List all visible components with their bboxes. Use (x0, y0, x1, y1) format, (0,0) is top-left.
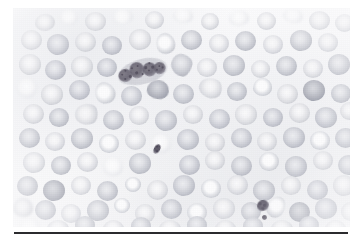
erythrocyte (276, 56, 297, 76)
erythrocyte (257, 12, 276, 30)
erythrocyte (205, 151, 225, 170)
erythrocyte (41, 84, 63, 105)
erythrocyte (235, 104, 257, 125)
erythrocyte (155, 110, 177, 131)
erythrocyte (231, 156, 252, 176)
erythrocyte (13, 198, 33, 217)
erythrocyte (75, 32, 96, 52)
erythrocyte (187, 216, 207, 227)
page-root (0, 0, 361, 241)
erythrocyte (281, 176, 301, 195)
erythrocyte (201, 13, 219, 30)
platelet-speck (156, 145, 159, 148)
erythrocyte (85, 12, 106, 31)
erythrocyte (17, 78, 37, 98)
erythrocyte (47, 34, 69, 55)
erythrocyte (309, 11, 330, 30)
erythrocyte (231, 128, 252, 148)
erythrocyte (257, 132, 277, 151)
chromatin-granule (128, 75, 131, 78)
erythrocyte (209, 34, 229, 53)
erythrocyte (97, 58, 117, 77)
erythrocyte (17, 176, 38, 196)
erythrocyte (45, 132, 65, 151)
erythrocyte (19, 128, 40, 148)
erythrocyte (289, 103, 310, 123)
erythrocyte (179, 155, 200, 175)
erythrocyte (251, 60, 270, 78)
erythrocyte (333, 175, 350, 196)
erythrocyte (75, 216, 95, 227)
erythrocyte (43, 180, 65, 201)
erythrocyte (335, 128, 350, 148)
erythrocyte (129, 153, 151, 174)
erythrocyte (173, 175, 195, 196)
erythrocyte (23, 104, 44, 124)
erythrocyte (145, 11, 164, 29)
erythrocyte (205, 133, 225, 152)
erythrocyte (303, 59, 323, 78)
erythrocyte (263, 108, 283, 127)
erythrocyte (23, 152, 45, 173)
erythrocyte (129, 106, 149, 125)
erythrocyte (223, 55, 245, 76)
erythrocyte (235, 31, 256, 51)
erythrocyte (97, 181, 118, 201)
platelet-speck (156, 150, 159, 153)
erythrocyte (103, 157, 123, 176)
platelet-speck (263, 216, 265, 218)
erythrocyte (307, 180, 328, 200)
chromatin-granule (135, 71, 138, 74)
chromatin-granule (161, 66, 163, 68)
erythrocyte (331, 84, 350, 103)
micrograph-figure (13, 8, 350, 227)
erythrocyte (328, 54, 350, 75)
platelet-speck (261, 207, 264, 210)
erythrocyte (49, 108, 69, 127)
erythrocyte (227, 82, 247, 101)
erythrocyte (161, 199, 182, 219)
erythrocyte (213, 198, 235, 219)
erythrocyte (313, 151, 333, 170)
erythrocyte (102, 36, 122, 55)
erythrocyte (45, 60, 66, 80)
erythrocyte (290, 30, 312, 51)
erythrocyte (19, 54, 41, 75)
erythrocyte (147, 180, 168, 200)
erythrocyte (114, 198, 130, 213)
erythrocyte (71, 56, 93, 77)
erythrocyte (303, 80, 325, 101)
erythrocyte (197, 58, 217, 77)
erythrocyte (209, 109, 230, 129)
erythrocyte (177, 129, 199, 150)
erythrocyte (263, 35, 283, 54)
erythrocyte (99, 134, 119, 153)
erythrocyte (227, 175, 248, 195)
erythrocyte (318, 33, 338, 52)
erythrocyte (129, 29, 151, 50)
erythrocyte (71, 128, 93, 149)
erythrocyte (51, 156, 71, 175)
erythrocyte (71, 176, 91, 195)
erythrocyte (21, 30, 42, 50)
erythrocyte (201, 179, 221, 198)
erythrocyte (315, 107, 337, 128)
caption-horizontal-rule (14, 232, 348, 234)
erythrocyte (183, 105, 203, 124)
erythrocyte (335, 14, 350, 32)
erythrocyte (77, 152, 98, 172)
erythrocyte (173, 84, 194, 104)
erythrocyte (253, 78, 272, 96)
erythrocyte (277, 84, 298, 104)
erythrocyte (299, 216, 319, 227)
erythrocyte (283, 127, 305, 148)
erythrocyte (181, 30, 202, 50)
erythrocyte (103, 110, 124, 130)
chromatin-granule (148, 62, 150, 64)
erythrocyte (69, 80, 90, 100)
erythrocyte (125, 130, 146, 150)
erythrocyte (35, 200, 56, 220)
platelet-speck (259, 202, 262, 205)
erythrocyte (121, 86, 142, 106)
erythrocyte (310, 131, 330, 150)
